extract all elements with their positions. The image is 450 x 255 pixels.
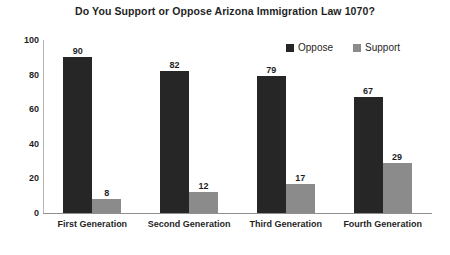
bar-group: 6729 — [334, 40, 431, 213]
bar-value-label: 82 — [153, 60, 197, 70]
x-axis-category-label: Fourth Generation — [334, 219, 431, 229]
y-axis-tick: 60 — [5, 104, 39, 114]
bar-oppose — [160, 71, 189, 213]
bar-support — [189, 192, 218, 213]
bar-support — [383, 163, 412, 213]
bar-value-label: 79 — [249, 65, 293, 75]
bar-chart: Do You Support or Oppose Arizona Immigra… — [0, 0, 450, 255]
y-axis-tick-labels: 100806040200 — [0, 40, 39, 214]
bar-value-label: 8 — [85, 188, 129, 198]
bar-support — [92, 199, 121, 213]
plot-area: 908821279176729 — [44, 40, 431, 213]
y-axis-tick: 40 — [5, 139, 39, 149]
chart-legend: OpposeSupport — [286, 42, 400, 53]
x-axis-category-label: First Generation — [44, 219, 141, 229]
bar-group: 7917 — [238, 40, 335, 213]
bar-group: 8212 — [141, 40, 238, 213]
bar-support — [286, 184, 315, 213]
x-axis-line — [43, 213, 432, 214]
bar-value-label: 12 — [182, 181, 226, 191]
legend-swatch-icon — [353, 44, 361, 52]
x-axis-category-label: Second Generation — [141, 219, 238, 229]
legend-label: Oppose — [298, 42, 333, 53]
bar-value-label: 67 — [346, 86, 390, 96]
legend-item-oppose[interactable]: Oppose — [286, 42, 333, 53]
legend-swatch-icon — [286, 44, 294, 52]
bar-oppose — [257, 76, 286, 213]
bar-value-label: 90 — [56, 46, 100, 56]
chart-title: Do You Support or Oppose Arizona Immigra… — [0, 5, 450, 17]
bar-value-label: 29 — [375, 152, 419, 162]
y-axis-tick: 80 — [5, 70, 39, 80]
bar-value-label: 17 — [278, 173, 322, 183]
legend-label: Support — [365, 42, 400, 53]
legend-item-support[interactable]: Support — [353, 42, 400, 53]
y-axis-tick: 100 — [5, 35, 39, 45]
y-axis-tick: 20 — [5, 173, 39, 183]
bar-group: 908 — [44, 40, 141, 213]
x-axis-category-label: Third Generation — [238, 219, 335, 229]
y-axis-tick: 0 — [5, 208, 39, 218]
